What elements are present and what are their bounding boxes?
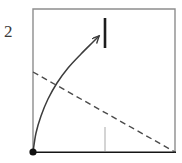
plot-canvas xyxy=(0,0,182,163)
figure-root: 2 xyxy=(0,0,182,163)
origin-point-marker xyxy=(29,148,36,155)
